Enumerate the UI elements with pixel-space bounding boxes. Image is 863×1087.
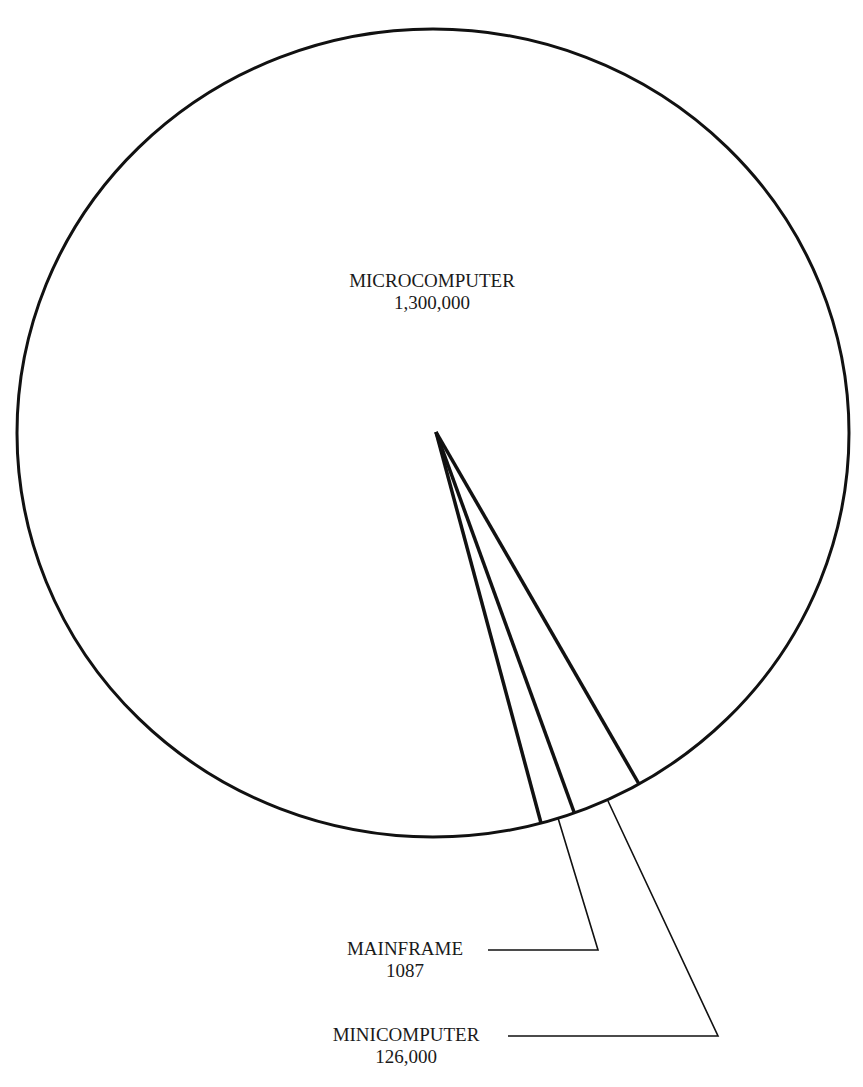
mainframe-name: MAINFRAME — [320, 938, 490, 960]
microcomputer-name: MICROCOMPUTER — [322, 270, 542, 292]
minicomputer-label: MINICOMPUTER 126,000 — [306, 1024, 506, 1068]
microcomputer-value: 1,300,000 — [322, 292, 542, 314]
pie-outline — [17, 29, 849, 837]
microcomputer-label: MICROCOMPUTER 1,300,000 — [322, 270, 542, 314]
mainframe-label: MAINFRAME 1087 — [320, 938, 490, 982]
mainframe-leader-line — [488, 818, 598, 950]
minicomputer-leader-line — [508, 801, 718, 1036]
pie-chart — [0, 0, 863, 1087]
mainframe-value: 1087 — [320, 960, 490, 982]
minicomputer-value: 126,000 — [306, 1046, 506, 1068]
minicomputer-name: MINICOMPUTER — [306, 1024, 506, 1046]
